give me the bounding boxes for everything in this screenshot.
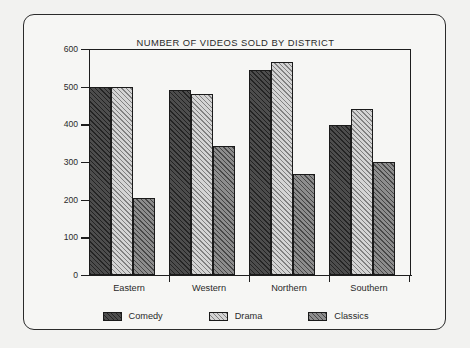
legend-swatch-comedy bbox=[103, 312, 122, 321]
y-axis-tick-label: 600 bbox=[44, 44, 78, 54]
legend-item-comedy: Comedy bbox=[103, 311, 163, 321]
bar-southern-classics bbox=[373, 162, 395, 275]
y-axis-tick-label: 100 bbox=[44, 232, 78, 242]
bar-eastern-classics bbox=[133, 198, 155, 275]
bar-western-classics bbox=[213, 146, 235, 275]
y-axis-tick bbox=[81, 162, 89, 163]
bar-western-comedy bbox=[169, 90, 191, 275]
x-axis-tick bbox=[169, 276, 170, 282]
y-axis-tick-label: 300 bbox=[44, 157, 78, 167]
x-axis-tick bbox=[409, 276, 410, 282]
bars-layer bbox=[89, 49, 411, 275]
chart-legend: ComedyDramaClassics bbox=[24, 311, 447, 321]
y-axis-tick bbox=[81, 275, 89, 276]
x-axis-category-label: Western bbox=[169, 283, 249, 293]
legend-label-drama: Drama bbox=[235, 311, 263, 321]
x-axis-category-label: Northern bbox=[249, 283, 329, 293]
bar-northern-comedy bbox=[249, 70, 271, 275]
legend-swatch-drama bbox=[209, 312, 228, 321]
legend-item-drama: Drama bbox=[209, 311, 263, 321]
x-axis-category-label: Southern bbox=[329, 283, 409, 293]
y-axis-tick-label: 200 bbox=[44, 195, 78, 205]
y-axis-tick-label: 400 bbox=[44, 119, 78, 129]
y-axis-tick bbox=[81, 237, 89, 238]
bar-western-drama bbox=[191, 94, 213, 275]
figure-border: NUMBER OF VIDEOS SOLD BY DISTRICT 010020… bbox=[23, 14, 446, 330]
bar-northern-classics bbox=[293, 174, 315, 275]
y-axis-tick bbox=[81, 200, 89, 201]
y-axis-tick-label: 500 bbox=[44, 82, 78, 92]
bar-northern-drama bbox=[271, 62, 293, 275]
x-axis-category-label: Eastern bbox=[89, 283, 169, 293]
bar-southern-comedy bbox=[329, 125, 351, 275]
legend-swatch-classics bbox=[308, 312, 327, 321]
legend-item-classics: Classics bbox=[308, 311, 368, 321]
y-axis-tick bbox=[81, 124, 89, 125]
x-axis-tick bbox=[329, 276, 330, 282]
y-axis-tick-label: 0 bbox=[44, 270, 78, 280]
bar-eastern-drama bbox=[111, 87, 133, 275]
legend-label-comedy: Comedy bbox=[129, 311, 163, 321]
y-axis-tick bbox=[81, 87, 89, 88]
legend-label-classics: Classics bbox=[334, 311, 368, 321]
plot-wrapper: 0100200300400500600 EasternWesternNorthe… bbox=[24, 15, 447, 331]
chart-figure: NUMBER OF VIDEOS SOLD BY DISTRICT 010020… bbox=[0, 0, 470, 348]
y-axis-tick bbox=[81, 49, 89, 50]
bar-eastern-comedy bbox=[89, 87, 111, 275]
x-axis-tick bbox=[249, 276, 250, 282]
bar-southern-drama bbox=[351, 109, 373, 275]
